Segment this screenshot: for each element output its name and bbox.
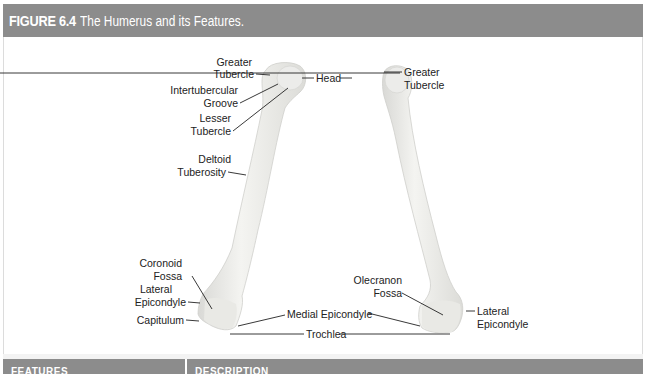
label-lateral-epicondyle-anterior-2: Epicondyle <box>135 296 187 308</box>
column-header-features: FEATURES <box>3 359 187 374</box>
label-trochlea: Trochlea <box>306 328 347 340</box>
label-lateral-epicondyle-posterior: Lateral <box>477 305 509 317</box>
label-greater-tubercle-posterior: Greater <box>404 66 440 78</box>
features-table-header: FEATURES DESCRIPTION <box>3 359 643 374</box>
figure-frame: FIGURE 6.4 The Humerus and its Features. <box>0 0 646 374</box>
label-greater-tubercle-posterior-2: Tubercle <box>404 79 445 91</box>
label-coronoid-fossa: Coronoid <box>139 257 182 269</box>
label-lesser-tubercle: Lesser <box>199 112 231 124</box>
label-coronoid-fossa-2: Fossa <box>153 270 182 282</box>
humerus-illustration: Greater Tubercle Head Intertubercular Gr… <box>0 0 646 374</box>
label-deltoid-tuberosity: Deltoid <box>198 153 231 165</box>
label-lateral-epicondyle-posterior-2: Epicondyle <box>477 318 529 330</box>
label-intertubercular-groove: Intertubercular <box>170 84 238 96</box>
label-deltoid-tuberosity-2: Tuberosity <box>177 166 226 178</box>
column-header-description: DESCRIPTION <box>187 359 643 374</box>
label-head: Head <box>316 72 341 84</box>
label-lateral-epicondyle-anterior: Lateral <box>140 283 172 295</box>
label-greater-tubercle-anterior-2: Tubercle <box>214 68 255 80</box>
label-greater-tubercle-anterior: Greater <box>216 56 252 68</box>
label-capitulum: Capitulum <box>137 314 185 326</box>
label-olecranon-fossa-2: Fossa <box>373 287 402 299</box>
label-lesser-tubercle-2: Tubercle <box>191 125 232 137</box>
label-medial-epicondyle: Medial Epicondyle <box>287 308 372 320</box>
label-olecranon-fossa: Olecranon <box>354 274 403 286</box>
label-intertubercular-groove-2: Groove <box>204 97 239 109</box>
